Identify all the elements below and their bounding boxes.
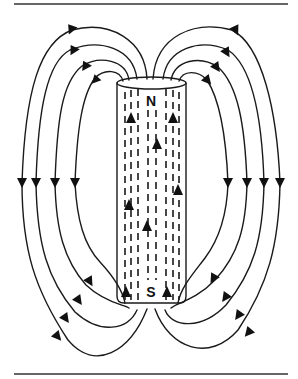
arrow-icon bbox=[50, 178, 60, 188]
arrow-up-icon bbox=[162, 286, 172, 297]
arrow-up-icon bbox=[142, 220, 152, 231]
arrow-icon bbox=[31, 178, 41, 188]
south-pole-label: S bbox=[146, 284, 155, 300]
north-pole-label: N bbox=[146, 93, 156, 109]
arrow-up-icon bbox=[126, 112, 136, 123]
arrow-up-icon bbox=[173, 184, 183, 195]
arrow-up-icon bbox=[121, 286, 131, 297]
right-field-lines bbox=[153, 27, 280, 348]
cylinder-magnet: N S bbox=[117, 77, 186, 303]
arrow-icon bbox=[223, 178, 233, 188]
arrow-up-icon bbox=[152, 138, 162, 149]
arrow-icon bbox=[17, 178, 27, 188]
left-field-lines bbox=[22, 27, 147, 355]
magnet-top-face bbox=[117, 77, 186, 89]
left-arrowheads bbox=[17, 23, 101, 344]
right-arrowheads bbox=[201, 24, 285, 340]
magnet-field-diagram: N S bbox=[0, 0, 298, 379]
arrow-icon bbox=[218, 291, 232, 305]
arrow-icon bbox=[72, 294, 86, 308]
arrow-icon bbox=[83, 275, 97, 289]
arrow-icon bbox=[64, 23, 77, 36]
arrow-icon bbox=[241, 326, 255, 340]
arrow-up-icon bbox=[168, 112, 178, 123]
arrow-icon bbox=[70, 178, 80, 188]
arrow-icon bbox=[259, 178, 269, 188]
arrow-icon bbox=[231, 309, 245, 323]
arrow-icon bbox=[242, 178, 252, 188]
arrow-icon bbox=[275, 178, 285, 188]
arrow-icon bbox=[59, 312, 73, 326]
arrow-icon bbox=[206, 272, 220, 286]
